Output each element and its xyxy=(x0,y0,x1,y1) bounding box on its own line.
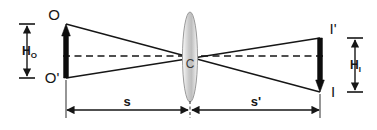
label-object-top: O xyxy=(48,6,60,23)
label-object-bottom: O' xyxy=(45,69,60,86)
label-image-height-subscript: I xyxy=(359,65,361,74)
label-object-height: HO xyxy=(22,44,37,60)
label-object-distance: s xyxy=(123,94,130,109)
svg-text:HO: HO xyxy=(22,44,37,60)
diagram-canvas: O O' I' I C HO HI s s' xyxy=(0,0,377,130)
thin-lens-diagram: O O' I' I C HO HI s s' xyxy=(0,0,377,130)
label-lens-center: C xyxy=(186,57,195,71)
label-object-height-subscript: O xyxy=(31,51,37,60)
label-image-top: I' xyxy=(329,20,336,37)
object-arrow xyxy=(62,24,71,78)
label-image-height-main: H xyxy=(350,58,359,72)
label-image-bottom: I xyxy=(331,83,335,100)
label-image-height: HI xyxy=(350,58,361,74)
image-arrow xyxy=(316,38,325,92)
label-image-distance: s' xyxy=(251,94,261,109)
label-object-height-main: H xyxy=(22,44,31,58)
svg-text:HI: HI xyxy=(350,58,361,74)
